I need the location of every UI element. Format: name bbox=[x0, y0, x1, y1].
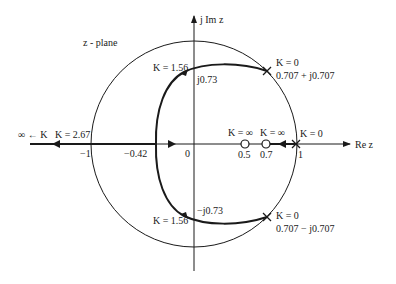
arrow-left-icon bbox=[52, 140, 60, 148]
k-inf-zero1-label: K = ∞ bbox=[228, 127, 253, 138]
k0-bottom-label: K = 0 bbox=[276, 210, 299, 221]
pole-bottom-label: 0.707 − j0.707 bbox=[276, 223, 334, 234]
arrow-to-zero-icon bbox=[278, 140, 286, 148]
k-267-label: K = 2.67 bbox=[55, 129, 90, 140]
zero-07-icon bbox=[262, 140, 270, 148]
k-156-bottom-label: K = 1.56 bbox=[153, 215, 188, 226]
k0-top-label: K = 0 bbox=[276, 57, 299, 68]
real-axis-label: Re z bbox=[355, 139, 374, 150]
tick-minus-one: −1 bbox=[80, 148, 91, 159]
k-156-top-label: K = 1.56 bbox=[153, 62, 188, 73]
root-locus-diagram: z - plane j Im z Re z ∞ ← K K = 2.67 −1 … bbox=[0, 0, 396, 284]
tick-zero: 0 bbox=[185, 148, 190, 159]
tick-half: 0.5 bbox=[238, 149, 251, 160]
j073-label: j0.73 bbox=[196, 74, 217, 85]
tick-one: 1 bbox=[298, 149, 303, 160]
pole-top-label: 0.707 + j0.707 bbox=[276, 70, 334, 81]
zero-05-icon bbox=[241, 140, 249, 148]
plane-label: z - plane bbox=[83, 37, 118, 48]
mj073-label: −j0.73 bbox=[197, 205, 223, 216]
tick-minus-042: −0.42 bbox=[124, 148, 147, 159]
tick-point7: 0.7 bbox=[260, 149, 273, 160]
arrow-right-0-icon bbox=[168, 140, 176, 148]
k-inf-left-label: ∞ ← K bbox=[18, 129, 48, 140]
imag-axis-label: j Im z bbox=[199, 14, 224, 25]
k-inf-zero2-label: K = ∞ bbox=[260, 127, 285, 138]
k0-right-label: K = 0 bbox=[300, 128, 323, 139]
